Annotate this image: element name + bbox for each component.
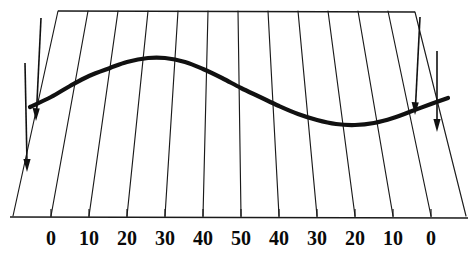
declination-grid-figure (0, 0, 468, 256)
axis-baseline (10, 217, 468, 218)
